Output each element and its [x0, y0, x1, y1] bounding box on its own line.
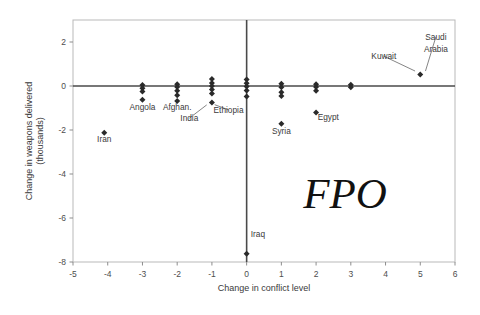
y-tick-label: 0 — [61, 81, 66, 91]
x-tick-label: 0 — [244, 269, 249, 279]
x-tick-label: 2 — [314, 269, 319, 279]
point-label: Angola — [130, 102, 156, 112]
fpo-watermark: FPO — [302, 170, 387, 217]
x-tick-label: 5 — [418, 269, 423, 279]
y-tick-label: -6 — [58, 213, 66, 223]
y-tick-label: 2 — [61, 37, 66, 47]
x-tick-label: 3 — [348, 269, 353, 279]
y-tick-label: -8 — [58, 257, 66, 267]
point-label: Iraq — [251, 229, 266, 239]
point-label: Syria — [272, 126, 291, 136]
x-tick-label: -5 — [69, 269, 77, 279]
y-axis-title-line: Change in weapons delivered — [24, 82, 34, 201]
y-tick-label: -4 — [58, 169, 66, 179]
scatter-chart: -5-4-3-2-1012345620-2-4-6-8Change in con… — [0, 0, 480, 315]
x-tick-label: -3 — [139, 269, 147, 279]
x-tick-label: 6 — [453, 269, 458, 279]
plot-frame — [73, 20, 455, 262]
point-label: Saudi — [425, 32, 446, 42]
point-label: Kuwait — [371, 51, 397, 61]
x-tick-label: -4 — [104, 269, 112, 279]
x-axis-title: Change in conflict level — [218, 283, 311, 293]
point-label: Iran — [97, 134, 112, 144]
y-axis-title-line: (thousands) — [35, 117, 45, 165]
y-tick-label: -2 — [58, 125, 66, 135]
point-label: Ethiopia — [214, 105, 244, 115]
x-tick-label: 4 — [383, 269, 388, 279]
x-tick-label: -1 — [208, 269, 216, 279]
point-label: Afghan. — [163, 102, 192, 112]
chart-page: -5-4-3-2-1012345620-2-4-6-8Change in con… — [0, 0, 480, 315]
point-label: Egypt — [318, 112, 340, 122]
x-tick-label: 1 — [279, 269, 284, 279]
point-label: India — [180, 113, 198, 123]
x-tick-label: -2 — [173, 269, 181, 279]
y-axis-title-group: Change in weapons delivered(thousands) — [24, 82, 45, 201]
point-label: Arabia — [424, 44, 448, 54]
